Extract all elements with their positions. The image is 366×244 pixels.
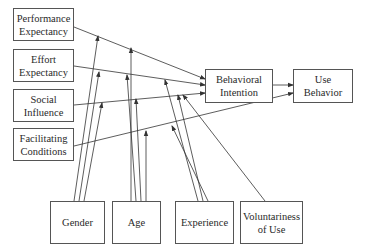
label-facilitating-conditions: Facilitating Conditions [14,132,73,158]
box-performance-expectancy: Performance Expectancy [13,8,74,41]
box-behavioral-intention: Behavioral Intention [205,69,273,103]
box-voluntariness-of-use: Voluntariness of Use [240,201,303,244]
edge-si-bi [74,93,205,105]
label-gender: Gender [62,216,93,229]
label-effort-expectancy: Effort Expectancy [11,53,76,79]
box-gender: Gender [50,201,105,244]
box-age: Age [112,201,161,244]
label-behavioral-intention: Behavioral Intention [206,73,272,99]
edge-ee-bi [74,66,205,85]
label-experience: Experience [181,216,228,229]
box-effort-expectancy: Effort Expectancy [13,49,74,82]
box-social-influence: Social Influence [13,89,74,122]
edge-pe-bi [74,27,205,79]
label-voluntariness-of-use: Voluntariness of Use [241,210,302,236]
label-age: Age [128,216,146,229]
label-use-behavior: Use Behavior [294,73,352,99]
label-performance-expectancy: Performance Expectancy [14,12,73,38]
label-social-influence: Social Influence [14,93,74,119]
box-use-behavior: Use Behavior [293,69,353,103]
box-facilitating-conditions: Facilitating Conditions [13,128,74,161]
box-experience: Experience [175,201,234,244]
